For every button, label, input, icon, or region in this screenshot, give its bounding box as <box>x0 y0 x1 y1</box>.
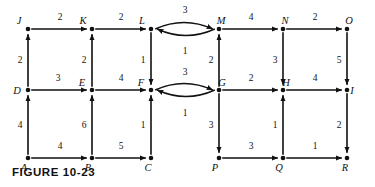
edge-weight-Q-R: 1 <box>313 141 318 151</box>
node-label-D: D <box>12 85 21 96</box>
node-M[interactable] <box>217 27 222 32</box>
edge-weight-G-F: 1 <box>183 108 188 118</box>
node-C[interactable] <box>149 156 154 161</box>
figure-caption: FIGURE 10-23 <box>12 166 95 178</box>
node-label-R: R <box>341 162 349 173</box>
edge-weight-I-R: 2 <box>337 120 342 130</box>
edge-weight-C-F: 1 <box>141 120 146 130</box>
edge-weight-L-F: 1 <box>141 55 146 65</box>
edge-weight-G-H: 2 <box>249 73 254 83</box>
node-label-P: P <box>211 162 219 173</box>
edge-weight-E-F: 4 <box>119 73 124 83</box>
edge-weight-G-M: 2 <box>209 55 214 65</box>
node-E[interactable] <box>90 88 95 93</box>
nodes-layer: JKLMNODEFGHIABCPQR <box>12 15 354 173</box>
edge-weight-M-N: 4 <box>249 12 254 22</box>
node-A[interactable] <box>26 156 31 161</box>
node-label-F: F <box>137 77 145 88</box>
edge-F-to-G <box>155 84 213 91</box>
edge-weight-M-L: 1 <box>183 46 188 56</box>
network-graph: JKLMNODEFGHIABCPQR 223142343124453124261… <box>0 0 375 187</box>
node-L[interactable] <box>149 27 154 32</box>
node-label-K: K <box>78 15 87 26</box>
edge-G-to-F <box>157 90 215 97</box>
node-label-H: H <box>281 77 291 88</box>
node-K[interactable] <box>90 27 95 32</box>
node-label-M: M <box>216 15 227 26</box>
edge-weight-N-O: 2 <box>313 12 318 22</box>
node-O[interactable] <box>345 27 350 32</box>
edge-weight-N-H: 3 <box>273 55 278 65</box>
edge-weight-L-M: 3 <box>183 5 188 15</box>
node-D[interactable] <box>26 88 31 93</box>
node-label-Q: Q <box>275 162 283 173</box>
edge-M-to-L <box>157 29 215 36</box>
node-H[interactable] <box>281 88 286 93</box>
node-B[interactable] <box>90 156 95 161</box>
node-label-O: O <box>345 15 353 26</box>
node-label-G: G <box>218 77 226 88</box>
edge-weight-D-J: 2 <box>18 55 23 65</box>
edge-weight-K-L: 2 <box>119 12 124 22</box>
edge-L-to-M <box>155 23 213 30</box>
node-label-J: J <box>17 15 23 26</box>
edge-weight-A-B: 4 <box>58 141 63 151</box>
node-label-N: N <box>280 15 289 26</box>
node-N[interactable] <box>281 27 286 32</box>
edges-layer <box>28 23 347 159</box>
edge-weight-G-P: 3 <box>209 120 214 130</box>
figure-container: JKLMNODEFGHIABCPQR 223142343124453124261… <box>0 0 375 187</box>
edge-weight-F-G: 3 <box>183 67 188 77</box>
edge-weight-E-K: 2 <box>82 55 87 65</box>
node-G[interactable] <box>217 88 222 93</box>
edge-weight-Q-H: 1 <box>273 120 278 130</box>
edge-weight-B-E: 6 <box>82 120 87 130</box>
edge-weight-P-Q: 3 <box>249 141 254 151</box>
node-label-E: E <box>78 77 86 88</box>
edge-weight-O-I: 5 <box>337 55 342 65</box>
node-R[interactable] <box>345 156 350 161</box>
edge-weight-J-K: 2 <box>58 12 63 22</box>
edge-weight-A-D: 4 <box>18 120 23 130</box>
edge-weight-B-C: 5 <box>119 141 124 151</box>
node-P[interactable] <box>217 156 222 161</box>
edge-weight-H-I: 4 <box>313 73 318 83</box>
node-F[interactable] <box>149 88 154 93</box>
node-I[interactable] <box>345 88 350 93</box>
node-Q[interactable] <box>281 156 286 161</box>
node-label-I: I <box>349 85 354 96</box>
weights-layer: 2231423431244531242611233152 <box>18 5 342 151</box>
node-label-L: L <box>138 15 145 26</box>
edge-weight-D-E: 3 <box>56 73 61 83</box>
node-J[interactable] <box>26 27 31 32</box>
node-label-C: C <box>144 162 152 173</box>
